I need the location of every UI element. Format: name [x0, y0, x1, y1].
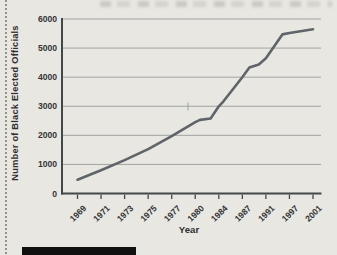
x-tick-label-1971: 1971 [91, 203, 112, 224]
series-line-black-elected-officials [78, 29, 314, 180]
y-tick-label-5000: 5000 [38, 43, 57, 53]
x-tick-label-2001: 2001 [303, 203, 324, 224]
y-axis-title: Number of Black Elected Officials [10, 25, 20, 180]
x-tick-label-1977: 1977 [162, 203, 183, 224]
y-tick-label-3000: 3000 [38, 101, 57, 111]
x-tick-label-1984: 1984 [209, 203, 230, 224]
x-tick-label-1975: 1975 [138, 203, 159, 224]
x-tick-label-1987: 1987 [233, 203, 254, 224]
y-tick-label-1000: 1000 [38, 159, 57, 169]
caption-bar [22, 247, 136, 255]
x-tick-label-1980: 1980 [185, 203, 206, 224]
y-tick-label-4000: 4000 [38, 72, 57, 82]
y-tick-label-2000: 2000 [38, 130, 57, 140]
x-axis-title: Year [179, 224, 199, 235]
x-tick-label-1973: 1973 [115, 203, 136, 224]
x-tick-label-1969: 1969 [68, 203, 89, 224]
y-tick-label-6000: 6000 [38, 14, 57, 24]
x-tick-label-1991: 1991 [256, 203, 277, 224]
x-tick-label-1997: 1997 [280, 203, 301, 224]
y-tick-label-0: 0 [52, 189, 57, 199]
